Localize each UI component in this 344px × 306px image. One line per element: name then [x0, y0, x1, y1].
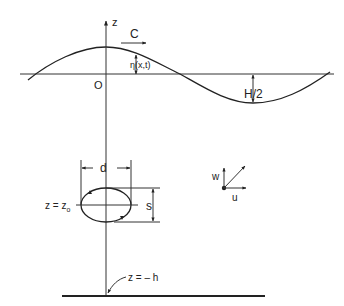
wave-diagram: z C O η(x,t) H/2 d s z = zo w u z = – h — [0, 0, 344, 306]
origin-label: O — [94, 79, 103, 91]
z-axis-label: z — [112, 16, 118, 28]
seabed-label: z = – h — [128, 272, 158, 283]
resultant-vector — [224, 166, 245, 188]
eta-label: η(x,t) — [130, 60, 151, 70]
u-label: u — [232, 192, 238, 203]
d-label: d — [100, 161, 107, 175]
orbit-depth-label: z = zo — [45, 200, 70, 213]
celerity-label: C — [130, 27, 139, 41]
half-height-label: H/2 — [244, 87, 263, 101]
s-label: s — [146, 199, 152, 213]
wave-profile — [28, 47, 330, 103]
seabed-leader — [108, 277, 126, 293]
w-label: w — [211, 171, 220, 182]
